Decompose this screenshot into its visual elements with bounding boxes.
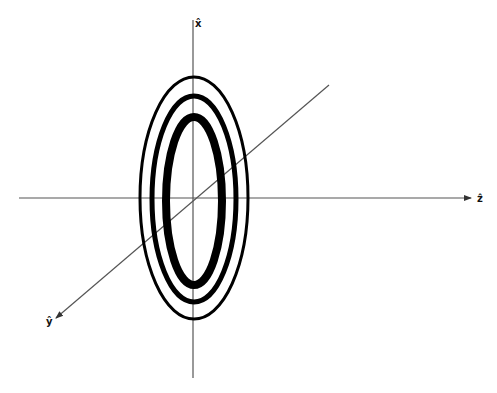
x-axis-label: x̂ [195,19,201,29]
z-axis-label: ẑ [477,194,483,204]
y-axis-label: ŷ [46,317,53,327]
axes-diagram [0,0,497,393]
